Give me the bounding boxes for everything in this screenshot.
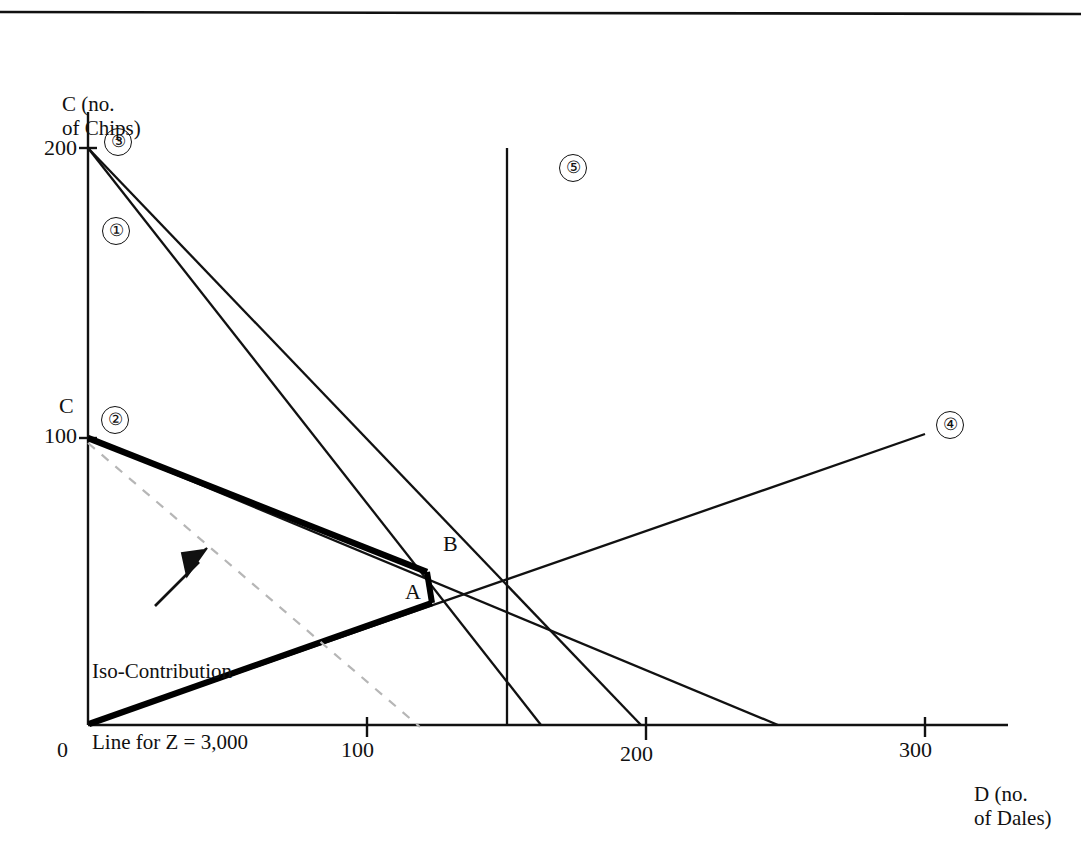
y-tick-label-200: 200: [44, 136, 77, 161]
iso-contribution-label-line1: Iso-Contribution: [92, 660, 248, 684]
constraint-marker-5: ⑤: [559, 154, 587, 182]
constraint-marker-4: ④: [936, 411, 964, 439]
top-rule: [0, 12, 1081, 14]
figure-canvas: C (no. of Chips) 200 C 100 0 100 200 300…: [0, 0, 1089, 842]
constraint-marker-1: ①: [102, 217, 130, 245]
x-tick-label-200: 200: [620, 742, 653, 767]
x-tick-label-100: 100: [341, 738, 374, 763]
x-axis-title: D (no. of Dales): [974, 736, 1052, 842]
constraint-marker-2: ②: [101, 406, 129, 434]
iso-contribution-label-line2: Line for Z = 3,000: [92, 731, 248, 755]
x-tick-label-300: 300: [899, 738, 932, 763]
x-tick-label-0: 0: [57, 738, 68, 763]
iso-contribution-arrow: [155, 548, 207, 606]
y-axis-corner-label: C: [59, 394, 74, 419]
vertex-label-B: B: [443, 532, 458, 557]
constraint-marker-3: ③: [104, 128, 132, 156]
y-axis-title: C (no. of Chips): [62, 46, 141, 187]
feasible-boundary-connector: [427, 572, 432, 603]
y-tick-label-100: 100: [44, 424, 77, 449]
vertex-label-A: A: [405, 580, 421, 605]
feasible-boundary-upper: [88, 438, 427, 572]
iso-contribution-label: Iso-Contribution Line for Z = 3,000: [92, 613, 248, 801]
